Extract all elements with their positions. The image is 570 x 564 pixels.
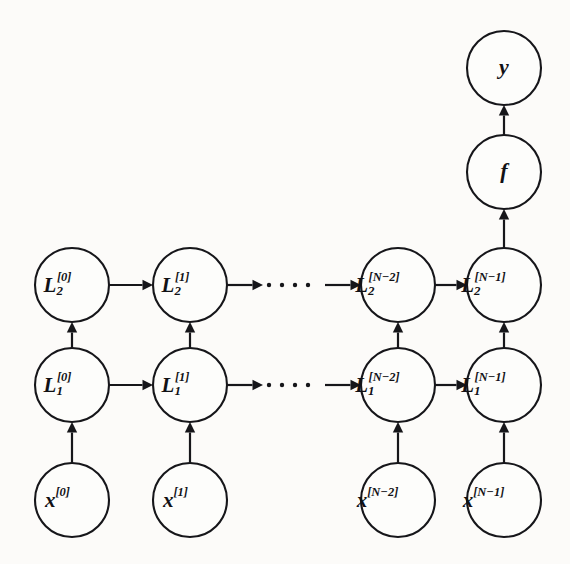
edge-l13-to-l2-head [499, 322, 509, 333]
edge-l10-to-l2-head [67, 322, 77, 333]
node-y-node: y [467, 31, 541, 105]
node-L2-n2: L2[N−2] [354, 248, 435, 322]
edge-x1-to-l1-head [185, 422, 195, 433]
node-L1-1: L1[1] [153, 348, 227, 422]
node-x-n2: x[N−2] [356, 463, 435, 537]
edge-l2-to-f-head [499, 209, 509, 220]
edges-layer [67, 105, 509, 463]
edge-l12-to-l2-head [393, 322, 403, 333]
ellipsis-dot [254, 283, 258, 287]
ellipsis-dot [306, 283, 310, 287]
node-L1-n2: L1[N−2] [354, 348, 435, 422]
node-circle-x-n2 [361, 463, 435, 537]
node-L2-1: L2[1] [153, 248, 227, 322]
edge-l11-to-l2-head [185, 322, 195, 333]
edge-row1-0-1-head [143, 280, 154, 290]
ellipsis-dot [280, 383, 284, 387]
ellipsis-dot [267, 283, 271, 287]
node-L2-0: L2[0] [35, 248, 109, 322]
diagram-canvas: L2[0]L2[1]L2[N−2]L2[N−1]L1[0]L1[1]L1[N−2… [0, 0, 570, 564]
ellipsis-dot [267, 383, 271, 387]
edge-x0-to-l1-head [67, 422, 77, 433]
node-L1-0: L1[0] [35, 348, 109, 422]
node-L2-n1: L2[N−1] [460, 248, 541, 322]
ellipsis-dot [254, 383, 258, 387]
edge-x3-to-l1-head [499, 422, 509, 433]
node-f-node: f [467, 135, 541, 209]
edge-f-to-y-head [499, 105, 509, 116]
node-x-n1: x[N−1] [462, 463, 541, 537]
node-L1-n1: L1[N−1] [460, 348, 541, 422]
edge-x2-to-l1-head [393, 422, 403, 433]
node-x-1: x[1] [153, 463, 227, 537]
network-diagram: L2[0]L2[1]L2[N−2]L2[N−1]L1[0]L1[1]L1[N−2… [0, 0, 570, 564]
ellipsis-dot [306, 383, 310, 387]
ellipsis-dot [280, 283, 284, 287]
ellipsis-dot [293, 383, 297, 387]
ellipsis-dot [293, 283, 297, 287]
node-x-0: x[0] [35, 463, 109, 537]
edge-row0-0-1-head [143, 380, 154, 390]
node-circle-x-n1 [467, 463, 541, 537]
